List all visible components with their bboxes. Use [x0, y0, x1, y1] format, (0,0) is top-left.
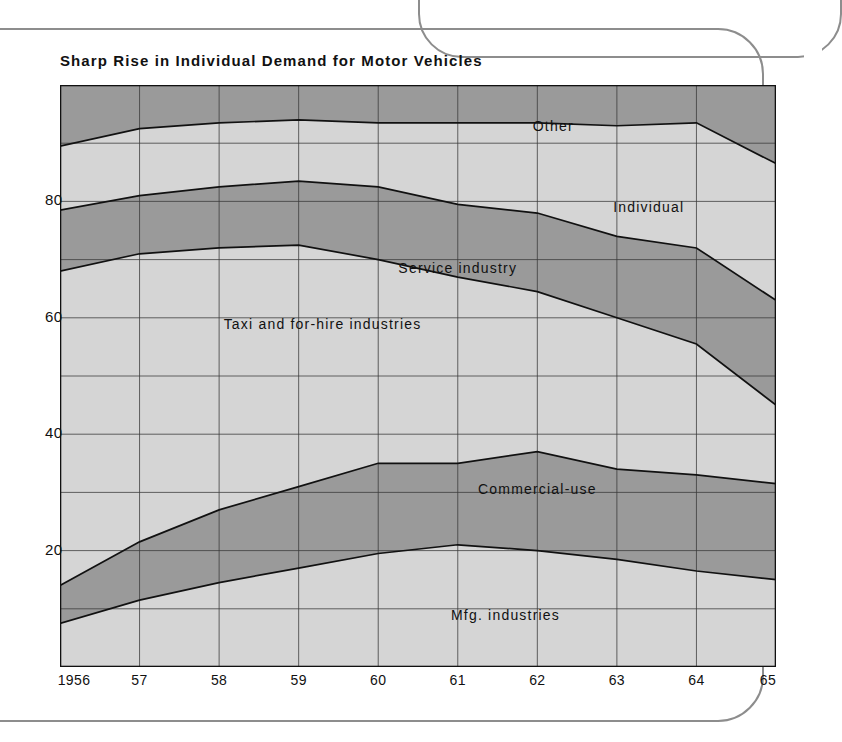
band-label-taxi-and-for-hire-industries: Taxi and for-hire industries [224, 316, 422, 332]
x-axis-tick-57: 57 [131, 672, 147, 688]
band-label-commercial-use: Commercial-use [478, 481, 597, 497]
x-axis-tick-61: 61 [450, 672, 466, 688]
band-label-other: Other [533, 118, 574, 134]
stacked-area-chart-svg [60, 85, 776, 667]
band-label-service-industry: Service industry [398, 260, 517, 276]
x-axis-tick-1956: 1956 [58, 672, 91, 688]
x-axis-tick-60: 60 [370, 672, 386, 688]
x-axis-tick-58: 58 [211, 672, 227, 688]
y-axis-tick-80: 80 [45, 191, 63, 208]
x-axis-tick-64: 64 [688, 672, 704, 688]
page-border-frame-arc [418, 0, 842, 58]
y-axis-tick-20: 20 [45, 541, 63, 558]
band-label-mfg-industries: Mfg. industries [451, 607, 560, 623]
x-axis-tick-63: 63 [609, 672, 625, 688]
y-axis-tick-60: 60 [45, 308, 63, 325]
x-axis-tick-62: 62 [529, 672, 545, 688]
band-label-individual: Individual [613, 199, 684, 215]
x-axis-tick-59: 59 [290, 672, 306, 688]
x-axis-tick-65: 65 [760, 672, 776, 688]
chart-plot-area [60, 85, 776, 667]
y-axis-tick-40: 40 [45, 424, 63, 441]
chart-title: Sharp Rise in Individual Demand for Moto… [60, 52, 483, 69]
